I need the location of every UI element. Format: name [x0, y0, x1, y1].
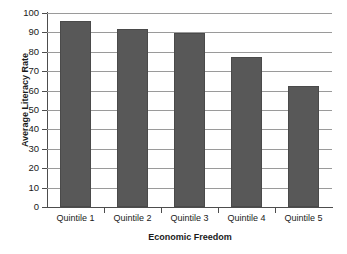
x-tick-mark — [104, 208, 105, 213]
y-tick-label: 50 — [0, 105, 39, 115]
y-tick-label: 40 — [0, 124, 39, 134]
x-category-label: Quintile 2 — [104, 214, 162, 223]
y-tick-mark — [42, 188, 47, 189]
y-tick-label: 20 — [0, 163, 39, 173]
y-tick-mark — [42, 129, 47, 130]
x-category-label: Quintile 3 — [161, 214, 219, 223]
x-tick-mark — [161, 208, 162, 213]
y-tick-label: 30 — [0, 144, 39, 154]
bar — [288, 86, 319, 207]
y-tick-mark — [42, 32, 47, 33]
x-tick-mark — [275, 208, 276, 213]
y-tick-label: 60 — [0, 86, 39, 96]
y-tick-label: 80 — [0, 47, 39, 57]
bar — [231, 57, 262, 207]
y-tick-mark — [42, 13, 47, 14]
y-tick-label: 100 — [0, 8, 39, 18]
gridline — [47, 13, 332, 14]
y-tick-mark — [42, 71, 47, 72]
y-tick-label: 70 — [0, 66, 39, 76]
bar — [60, 21, 91, 207]
y-tick-mark — [42, 52, 47, 53]
x-tick-mark — [218, 208, 219, 213]
bar-chart-figure: Average Literacy Rate 010203040506070809… — [0, 0, 347, 254]
y-tick-mark — [42, 207, 47, 208]
y-tick-label: 10 — [0, 183, 39, 193]
y-tick-mark — [42, 168, 47, 169]
y-axis-title: Average Literacy Rate — [20, 20, 30, 180]
y-tick-mark — [42, 149, 47, 150]
bar — [117, 29, 148, 207]
y-tick-label: 0 — [0, 202, 39, 212]
x-category-label: Quintile 5 — [275, 214, 333, 223]
x-axis-line — [47, 207, 333, 208]
y-tick-mark — [42, 110, 47, 111]
bar — [174, 33, 205, 207]
y-tick-label: 90 — [0, 27, 39, 37]
x-axis-title: Economic Freedom — [47, 232, 333, 242]
x-category-label: Quintile 1 — [47, 214, 105, 223]
x-category-label: Quintile 4 — [218, 214, 276, 223]
y-tick-mark — [42, 91, 47, 92]
